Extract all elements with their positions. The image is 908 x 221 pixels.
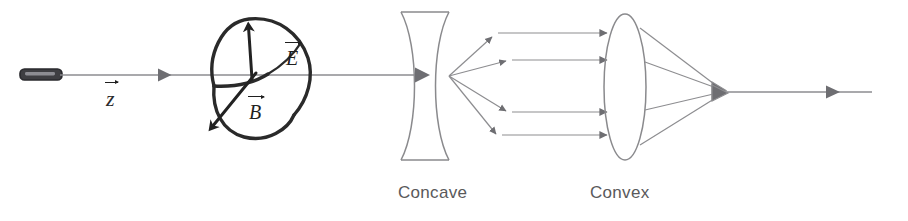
convex-lens-caption: Convex <box>590 183 649 203</box>
diverging-rays <box>449 37 506 134</box>
converging-ray-1 <box>640 28 722 90</box>
e-field-vector-label: E <box>286 48 298 68</box>
lens-entry-arrowhead <box>415 68 430 83</box>
diverging-ray-3 <box>449 76 506 111</box>
converging-ray-2 <box>645 62 722 90</box>
converging-rays <box>640 28 728 145</box>
concave-lens <box>401 12 449 160</box>
optics-diagram-canvas: z E B Concave Convex <box>0 0 908 221</box>
exit-ray-arrowhead <box>826 86 840 99</box>
diverging-ray-4 <box>449 76 496 134</box>
parallel-rays <box>498 33 607 135</box>
convex-lens <box>604 14 646 160</box>
exit-ray <box>726 86 872 99</box>
concave-lens-caption: Concave <box>398 183 467 203</box>
e-field-vector-arrow <box>249 27 253 79</box>
b-field-vector-label: B <box>249 102 261 122</box>
z-axis-vector-label: z <box>106 88 115 110</box>
incident-beam-arrowhead <box>158 69 172 82</box>
light-source <box>20 69 62 80</box>
